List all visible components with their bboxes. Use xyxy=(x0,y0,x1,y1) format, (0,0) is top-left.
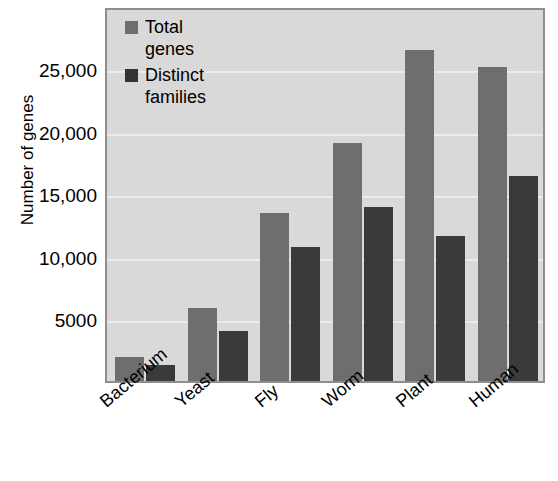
x-tick-label-yeast: Yeast xyxy=(171,367,219,412)
x-tick-label-plant: Plant xyxy=(392,370,437,412)
x-tick-label-human: Human xyxy=(465,359,523,412)
x-tick-label-fly: Fly xyxy=(251,381,283,413)
x-axis-tick-labels: BacteriumYeastFlyWormPlantHuman xyxy=(0,0,558,481)
x-tick-label-bacterium: Bacterium xyxy=(96,344,172,412)
x-tick-label-worm: Worm xyxy=(318,365,368,412)
